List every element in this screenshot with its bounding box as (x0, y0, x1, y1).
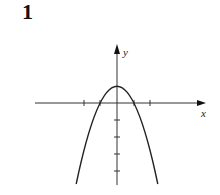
y-axis-label: y (122, 46, 128, 58)
x-axis-label: x (200, 107, 206, 119)
y-axis-arrow-icon (114, 44, 120, 54)
parabola-chart: y x (0, 0, 220, 195)
x-axis-arrow-icon (197, 100, 206, 106)
